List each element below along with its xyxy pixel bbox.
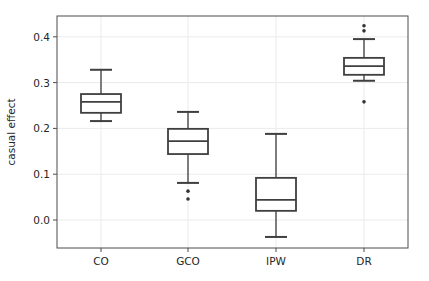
x-axis-ticks: COGCOIPWDR [93,248,372,267]
y-axis-ticks: 0.00.10.20.30.4 [33,31,57,226]
y-tick-label: 0.3 [33,77,50,89]
iqr-box [256,178,296,211]
outlier-point [362,24,366,28]
box-series [81,24,384,237]
x-tick-label-dr: DR [356,255,371,267]
x-tick-label-gco: GCO [176,255,200,267]
iqr-box [81,94,121,113]
plot-frame [57,16,408,248]
y-tick-label: 0.2 [33,122,50,134]
outlier-point [186,197,190,201]
y-tick-label: 0.4 [33,31,50,43]
grid-lines [57,16,408,248]
outlier-point [362,100,366,104]
outlier-point [362,29,366,33]
box-co [81,70,121,121]
y-tick-label: 0.1 [33,168,50,180]
x-tick-label-ipw: IPW [266,255,286,267]
box-plot-chart: 0.00.10.20.30.4 COGCOIPWDR casual effect [0,0,429,281]
y-tick-label: 0.0 [33,214,50,226]
x-tick-label-co: CO [93,255,109,267]
box-ipw [256,134,296,237]
outlier-point [186,189,190,193]
y-axis-label: casual effect [5,98,17,165]
